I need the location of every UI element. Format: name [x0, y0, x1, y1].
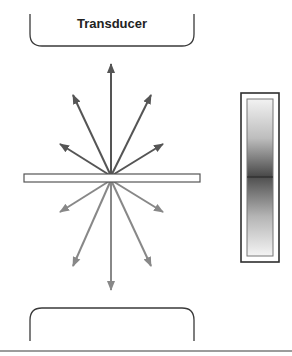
bottom-transducer — [30, 308, 194, 341]
transducer-label: Transducer — [30, 16, 194, 31]
reflector-bar — [24, 174, 200, 182]
lower-arrows — [60, 180, 163, 290]
intensity-gauge — [241, 93, 279, 262]
upper-arrows — [60, 64, 163, 176]
diagram-canvas — [0, 0, 292, 356]
